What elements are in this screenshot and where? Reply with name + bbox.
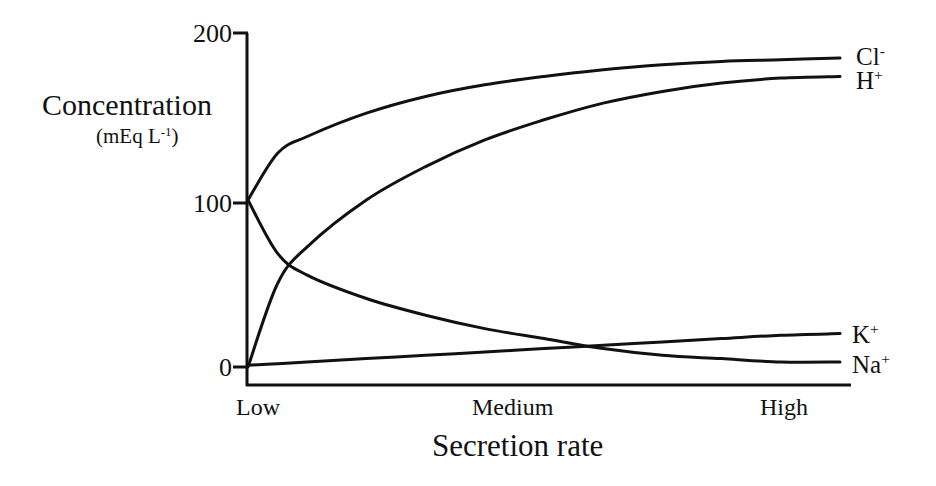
legend-label-h: H+ — [856, 68, 883, 93]
series-line-h — [248, 76, 840, 367]
series-layer — [248, 58, 840, 367]
y-axis-title: Concentration — [42, 90, 212, 120]
legend-k-sup: + — [870, 320, 879, 337]
legend-h-base: H — [856, 67, 874, 94]
legend-cl-sup: - — [880, 42, 885, 59]
legend-label-na: Na+ — [852, 352, 890, 377]
legend-na-sup: + — [881, 350, 890, 367]
legend-h-sup: + — [874, 66, 883, 83]
x-category-medium: Medium — [472, 395, 553, 419]
y-tick-label-0: 0 — [219, 355, 232, 381]
axes — [233, 33, 851, 386]
x-category-high: High — [760, 395, 808, 419]
x-axis-title: Secretion rate — [432, 430, 603, 461]
x-category-low: Low — [236, 395, 280, 419]
legend-label-cl: Cl- — [856, 44, 885, 69]
legend-k-base: K — [852, 321, 870, 348]
y-axis-unit-base: (mEq L — [96, 124, 161, 148]
y-tick-label-200: 200 — [193, 21, 232, 47]
y-axis-unit-exponent: -1 — [161, 124, 172, 139]
y-axis-unit-close: ) — [172, 124, 179, 148]
legend-label-k: K+ — [852, 322, 879, 347]
y-axis-unit: (mEq L-1) — [96, 126, 179, 147]
y-tick-label-100: 100 — [193, 191, 232, 217]
legend-na-base: Na — [852, 351, 881, 378]
